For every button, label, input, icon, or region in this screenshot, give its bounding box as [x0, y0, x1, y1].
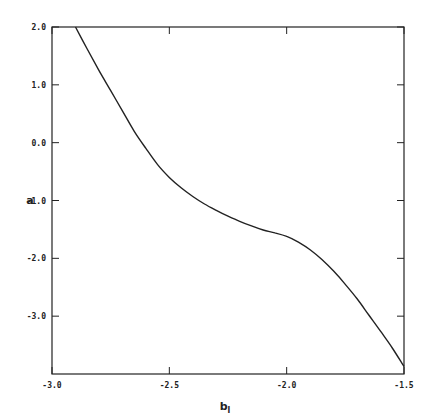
y-tick-label: 1.0 [32, 81, 47, 90]
x-tick-label: -3.0 [42, 381, 61, 390]
y-tick-label: -2.0 [27, 254, 46, 263]
line-chart: -3.0-2.5-2.0-1.5 2.01.00.0-1.0-2.0-3.0 a… [0, 0, 431, 420]
x-tick-label: -2.0 [277, 381, 296, 390]
x-tick-label: -2.5 [160, 381, 179, 390]
y-tick-label: 0.0 [32, 139, 47, 148]
y-axis-ticks: 2.01.00.0-1.0-2.0-3.0 [27, 23, 404, 321]
x-axis-ticks: -3.0-2.5-2.0-1.5 [42, 27, 413, 390]
plot-frame [52, 27, 404, 374]
data-curve [76, 27, 405, 367]
y-tick-label: 2.0 [32, 23, 47, 32]
x-axis-label-subscript: l [228, 406, 231, 415]
y-tick-label: -3.0 [27, 312, 46, 321]
x-axis-label-main: b [220, 400, 228, 413]
x-axis-label: bl [220, 400, 231, 415]
y-axis-label: a [26, 194, 33, 207]
x-tick-label: -1.5 [394, 381, 413, 390]
